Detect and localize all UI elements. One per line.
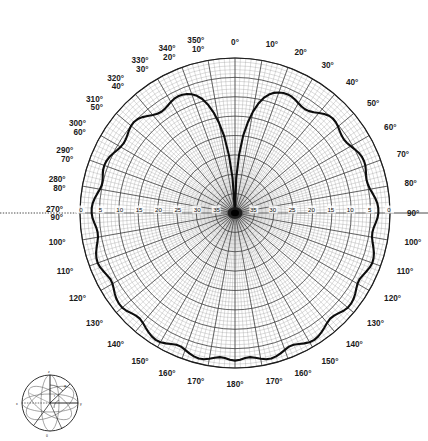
angular-tick-label: 130° — [367, 319, 384, 328]
angular-tick-label-primary: 270° — [46, 205, 63, 214]
angular-tick-label: 140° — [107, 340, 124, 349]
angular-tick-label: 20° — [294, 48, 306, 57]
angular-tick-label-primary: 100° — [404, 238, 421, 247]
angular-tick-label-primary: 50° — [367, 99, 379, 108]
inset-label-x: x — [16, 402, 18, 406]
radial-tick-label: 35 — [213, 206, 220, 213]
radial-tick-label: 10 — [347, 206, 354, 213]
angular-tick-label: 160° — [294, 369, 311, 378]
angular-tick-label: 160° — [159, 369, 176, 378]
angular-tick-label-secondary: 50° — [91, 103, 103, 112]
angular-tick-label: 110° — [397, 267, 413, 276]
angular-tick-label-primary: 110° — [397, 267, 413, 276]
angular-tick-label: 30° — [322, 61, 334, 70]
angular-tick-label: 80° — [404, 179, 416, 188]
radial-tick-label: 0 — [79, 206, 83, 213]
angular-tick-label-primary: 170° — [266, 377, 283, 386]
angular-tick-label: 130° — [86, 319, 103, 328]
angular-tick-label-secondary: 70° — [61, 155, 73, 164]
angular-tick-label-primary: 300° — [69, 119, 86, 128]
inset-label-y: y — [80, 402, 82, 406]
angular-tick-label-primary: 350° — [187, 36, 204, 45]
angular-tick-label-secondary: 60° — [74, 128, 86, 137]
angular-tick-label-primary: 130° — [86, 319, 103, 328]
angular-tick-label: 140° — [346, 340, 363, 349]
radial-tick-label: 20 — [308, 206, 315, 213]
angular-tick-label: 180° — [227, 380, 244, 389]
radial-tick-label: 25 — [289, 206, 296, 213]
angular-tick-label: 110° — [57, 267, 73, 276]
radial-tick-label: 35 — [250, 206, 257, 213]
angular-tick-label-primary: 330° — [132, 56, 149, 65]
angular-tick-label: 90° — [407, 209, 419, 218]
angular-tick-label: 10° — [266, 40, 278, 49]
angular-tick-label-primary: 280° — [49, 175, 66, 184]
radial-tick-label: 20 — [155, 206, 162, 213]
angular-tick-label-primary: 20° — [294, 48, 306, 57]
angular-tick-label-primary: 310° — [86, 95, 103, 104]
angular-tick-label-primary: 140° — [107, 340, 124, 349]
angular-tick-label-primary: 80° — [404, 179, 416, 188]
angular-tick-label-primary: 90° — [407, 209, 419, 218]
radial-tick-label: 25 — [174, 206, 181, 213]
angular-tick-label: 50° — [367, 99, 379, 108]
angular-tick-label-primary: 10° — [266, 40, 278, 49]
angular-tick-label: 150° — [322, 357, 339, 366]
angular-tick-label-secondary: 30° — [136, 65, 148, 74]
angular-tick-label: 170° — [187, 377, 204, 386]
radial-tick-label: 0 — [387, 206, 391, 213]
angular-tick-label: 100° — [404, 238, 421, 247]
angular-tick-label-primary: 70° — [397, 150, 409, 159]
polar-plot-figure: 0055101015152020252530303535 0°10°20°30°… — [0, 0, 428, 441]
angular-tick-label-primary: 120° — [384, 294, 401, 303]
angular-tick-label-primary: 100° — [49, 238, 66, 247]
angular-tick-label-primary: 150° — [322, 357, 339, 366]
radial-tick-label: 30 — [194, 206, 201, 213]
plot-center-hub — [228, 207, 243, 219]
angular-tick-label-primary: 60° — [384, 123, 396, 132]
angular-tick-label-primary: 290° — [56, 146, 73, 155]
radial-tick-label: 30 — [269, 206, 276, 213]
angular-tick-label-secondary: 40° — [112, 82, 124, 91]
angular-tick-label-primary: 340° — [159, 44, 176, 53]
angular-tick-label-primary: 320° — [107, 74, 124, 83]
angular-tick-label-primary: 30° — [322, 61, 334, 70]
angular-tick-label: 150° — [132, 357, 149, 366]
radial-tick-label: 5 — [368, 206, 372, 213]
angular-tick-label: 60° — [384, 123, 396, 132]
angular-tick-label: 120° — [69, 294, 86, 303]
angular-tick-label: 40° — [346, 78, 358, 87]
angular-tick-label: 0° — [231, 38, 239, 47]
polar-plot-canvas: 0055101015152020252530303535 0°10°20°30°… — [0, 0, 428, 441]
angular-tick-label-secondary: 80° — [53, 184, 65, 193]
angular-tick-label-primary: 0° — [231, 38, 239, 47]
inset-label-z: z — [48, 370, 50, 374]
angular-tick-label: 70° — [397, 150, 409, 159]
angular-tick-label-primary: 160° — [294, 369, 311, 378]
radial-tick-label: 5 — [99, 206, 103, 213]
angular-tick-label-secondary: 90° — [51, 213, 63, 222]
radial-tick-label: 10 — [116, 206, 123, 213]
angular-tick-label-primary: 180° — [227, 380, 244, 389]
angular-tick-label-primary: 40° — [346, 78, 358, 87]
angular-tick-label-primary: 130° — [367, 319, 384, 328]
angular-tick-label-primary: 170° — [187, 377, 204, 386]
angular-tick-label: 100° — [49, 238, 66, 247]
angular-tick-label-primary: 150° — [132, 357, 149, 366]
angular-tick-label-primary: 160° — [159, 369, 176, 378]
radial-tick-label: 15 — [136, 206, 143, 213]
angular-tick-label-secondary: 20° — [163, 53, 175, 62]
radial-tick-label: 15 — [327, 206, 334, 213]
angular-tick-label: 170° — [266, 377, 283, 386]
angular-tick-label-secondary: 10° — [192, 45, 204, 54]
angular-tick-label-primary: 110° — [57, 267, 73, 276]
angular-tick-label: 120° — [384, 294, 401, 303]
angular-tick-label-primary: 120° — [69, 294, 86, 303]
inset-label-theta: θ — [46, 434, 48, 438]
angular-tick-label-primary: 140° — [346, 340, 363, 349]
